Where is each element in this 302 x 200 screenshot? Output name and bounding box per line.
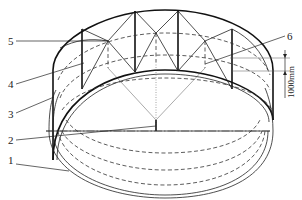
label-2: 2 bbox=[8, 134, 14, 146]
label-1: 1 bbox=[8, 154, 14, 166]
dimension-1000mm: 1000mm bbox=[230, 50, 296, 98]
label-6: 6 bbox=[287, 30, 293, 42]
label-4: 4 bbox=[8, 78, 14, 90]
inner-dashed-rings bbox=[58, 33, 272, 110]
truss-bottom-chord bbox=[53, 70, 273, 160]
base-rings bbox=[49, 88, 273, 198]
truss-verticals bbox=[82, 11, 232, 89]
side-walls bbox=[53, 70, 273, 160]
truss-diagonals bbox=[60, 11, 268, 89]
cylinder-truss-diagram: 1000mm 5 4 3 2 1 6 bbox=[0, 0, 302, 200]
label-3: 3 bbox=[8, 108, 14, 120]
dimension-label: 1000mm bbox=[286, 66, 296, 98]
label-5: 5 bbox=[8, 35, 14, 47]
